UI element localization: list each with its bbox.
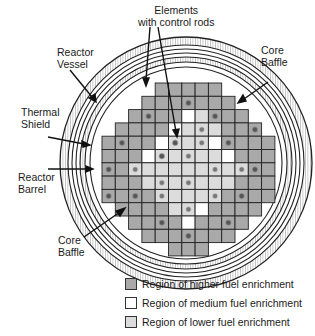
- fuel-element: [182, 243, 195, 256]
- fuel-element: [155, 203, 168, 216]
- label-line: Shield: [21, 118, 60, 130]
- fuel-element: [262, 150, 275, 163]
- fuel-element: [235, 176, 248, 189]
- control-rod-center: [240, 194, 243, 197]
- fuel-element: [208, 203, 221, 216]
- fuel-element: [182, 83, 195, 96]
- fuel-element: [129, 123, 142, 136]
- control-rod-center: [213, 115, 216, 118]
- label-line: Vessel: [57, 58, 94, 70]
- fuel-element: [222, 189, 235, 202]
- fuel-element: [142, 123, 155, 136]
- fuel-element: [208, 83, 221, 96]
- legend: Region of higher fuel enrichment Region …: [125, 276, 302, 333]
- fuel-element: [169, 216, 182, 229]
- fuel-element: [142, 229, 155, 242]
- fuel-element: [248, 136, 261, 149]
- fuel-element: [195, 203, 208, 216]
- fuel-element: [195, 189, 208, 202]
- control-rod-center: [253, 128, 256, 131]
- control-rod-center: [200, 128, 203, 131]
- fuel-element: [182, 189, 195, 202]
- fuel-element: [169, 163, 182, 176]
- fuel-element: [248, 176, 261, 189]
- control-rod-center: [107, 168, 110, 171]
- fuel-element: [142, 163, 155, 176]
- fuel-element: [195, 176, 208, 189]
- fuel-element: [169, 150, 182, 163]
- label-line: Core: [58, 234, 85, 246]
- control-rod-center: [227, 221, 230, 224]
- fuel-element: [129, 150, 142, 163]
- label-line: Reactor: [57, 46, 94, 58]
- control-rod-center: [240, 168, 243, 171]
- fuel-element: [169, 176, 182, 189]
- legend-item-higher: Region of higher fuel enrichment: [125, 276, 302, 292]
- fuel-element: [222, 229, 235, 242]
- fuel-element: [195, 216, 208, 229]
- fuel-element: [102, 136, 115, 149]
- label-line: with control rods: [138, 16, 214, 28]
- control-rod-center: [134, 168, 137, 171]
- fuel-element: [142, 203, 155, 216]
- fuel-element: [115, 123, 128, 136]
- fuel-element: [195, 229, 208, 242]
- label-reactor-barrel: Reactor Barrel: [18, 171, 55, 195]
- control-rod-center: [187, 208, 190, 211]
- fuel-element: [182, 123, 195, 136]
- control-rod-center: [200, 141, 203, 144]
- swatch-higher: [125, 278, 137, 290]
- fuel-element: [222, 96, 235, 109]
- fuel-element: [262, 163, 275, 176]
- fuel-element: [235, 216, 248, 229]
- control-rod-center: [227, 141, 230, 144]
- label-line: Baffle: [261, 56, 288, 68]
- fuel-element: [195, 163, 208, 176]
- fuel-element: [248, 189, 261, 202]
- label-elements-with-control-rods: Elements with control rods: [138, 4, 214, 28]
- fuel-element: [235, 123, 248, 136]
- fuel-element: [262, 136, 275, 149]
- fuel-element: [142, 150, 155, 163]
- control-rod-center: [213, 194, 216, 197]
- fuel-element: [222, 123, 235, 136]
- fuel-element: [169, 203, 182, 216]
- control-rod-center: [187, 181, 190, 184]
- control-rod-center: [253, 168, 256, 171]
- reactor-core-diagram: Elements with control rods Reactor Vesse…: [0, 0, 315, 336]
- fuel-element: [142, 136, 155, 149]
- label-core-baffle-right: Core Baffle: [261, 44, 288, 68]
- fuel-element: [235, 110, 248, 123]
- fuel-element: [208, 150, 221, 163]
- fuel-element: [262, 189, 275, 202]
- control-rod-center: [187, 155, 190, 158]
- fuel-element: [235, 150, 248, 163]
- fuel-element: [115, 189, 128, 202]
- control-rod-center: [160, 155, 163, 158]
- label-line: Elements: [138, 4, 214, 16]
- fuel-element: [262, 176, 275, 189]
- fuel-element: [142, 96, 155, 109]
- control-rod-center: [174, 141, 177, 144]
- fuel-element: [169, 229, 182, 242]
- fuel-element: [222, 150, 235, 163]
- label-line: Barrel: [18, 183, 55, 195]
- fuel-element: [235, 203, 248, 216]
- fuel-element: [182, 163, 195, 176]
- fuel-element: [155, 123, 168, 136]
- legend-label: Region of lower fuel enrichment: [142, 316, 290, 328]
- fuel-element: [155, 136, 168, 149]
- legend-item-medium: Region of medium fuel enrichment: [125, 295, 302, 311]
- legend-item-lower: Region of lower fuel enrichment: [125, 314, 302, 330]
- fuel-element: [169, 189, 182, 202]
- control-rod-center: [187, 101, 190, 104]
- fuel-element: [142, 216, 155, 229]
- fuel-element: [169, 243, 182, 256]
- control-rod-center: [147, 115, 150, 118]
- fuel-element: [155, 229, 168, 242]
- fuel-element: [182, 216, 195, 229]
- fuel-element: [129, 110, 142, 123]
- legend-label: Region of higher fuel enrichment: [142, 278, 294, 290]
- fuel-element: [102, 150, 115, 163]
- label-reactor-vessel: Reactor Vessel: [57, 46, 94, 70]
